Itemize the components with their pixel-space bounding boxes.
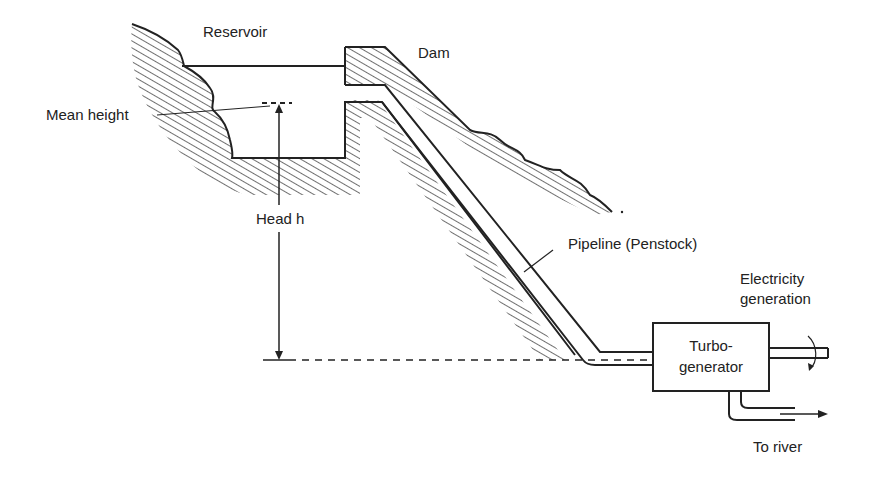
hydro-diagram: Reservoir Dam Mean height Head h Pipelin…	[0, 0, 870, 481]
label-mean-height: Mean height	[46, 106, 129, 123]
generator-shaft	[769, 336, 828, 371]
pipeline-leader	[524, 250, 553, 272]
river-outlet	[729, 391, 828, 420]
label-electricity: Electricity	[740, 270, 805, 287]
label-turbo: Turbo-	[689, 337, 733, 354]
label-pipeline: Pipeline (Penstock)	[568, 235, 697, 252]
label-head: Head h	[256, 210, 304, 227]
label-to-river: To river	[753, 438, 802, 455]
label-reservoir: Reservoir	[203, 23, 267, 40]
label-generator: generator	[679, 358, 743, 375]
turbo-generator-box	[653, 323, 769, 391]
label-dam: Dam	[418, 44, 450, 61]
label-generation: generation	[740, 290, 811, 307]
